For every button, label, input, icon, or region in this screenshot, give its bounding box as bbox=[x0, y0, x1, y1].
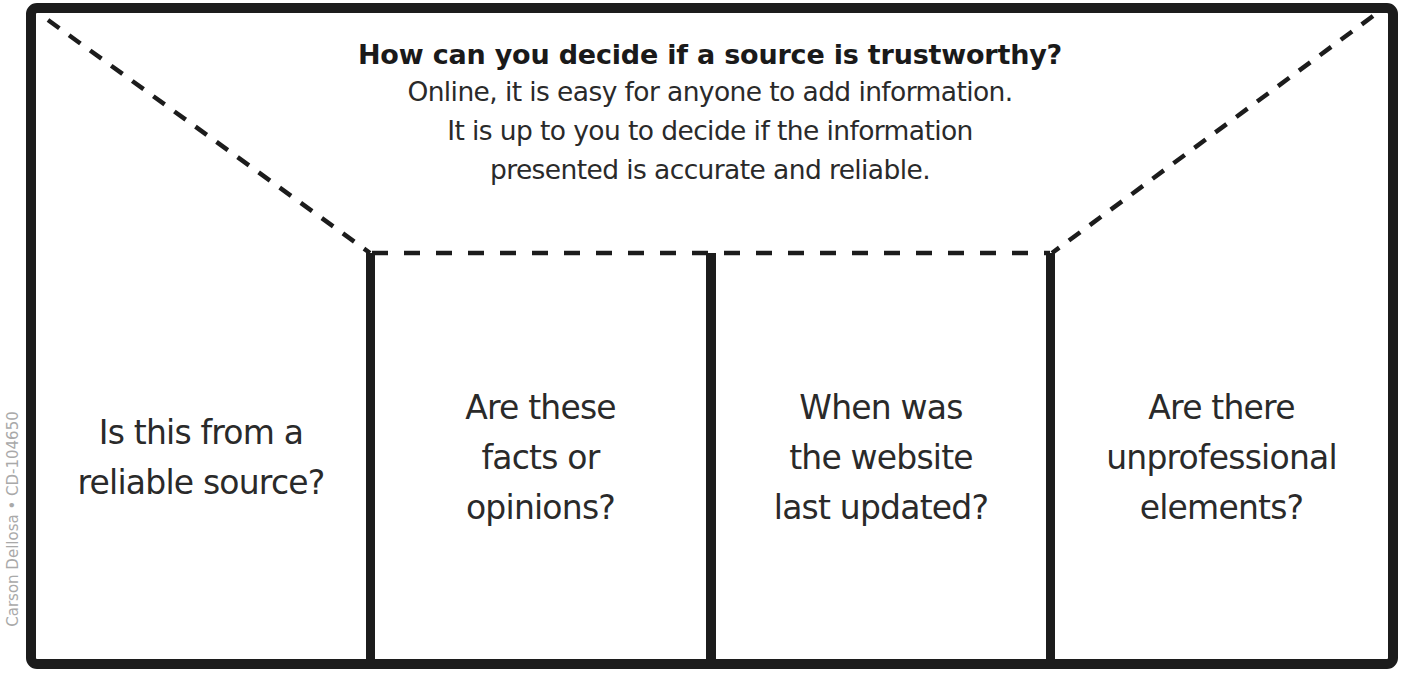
flap-question-line: Are there bbox=[1106, 383, 1337, 433]
flap-question-line: Is this from a bbox=[78, 408, 325, 458]
flap-question-line: last updated? bbox=[774, 483, 988, 533]
flap-question-line: Are these bbox=[465, 383, 616, 433]
flap-question-line: facts or bbox=[465, 433, 616, 483]
flap-question: When was the website last updated? bbox=[774, 383, 988, 533]
flap-facts-or-opinions: Are these facts or opinions? bbox=[375, 262, 706, 654]
flap-unprofessional-elements: Are there unprofessional elements? bbox=[1055, 262, 1388, 654]
header-body: Online, it is easy for anyone to add inf… bbox=[280, 72, 1140, 189]
flap-last-updated: When was the website last updated? bbox=[716, 262, 1046, 654]
flap-question-line: reliable source? bbox=[78, 458, 325, 508]
publisher-credit: Carson Dellosa • CD-104650 bbox=[4, 389, 22, 649]
flap-question: Are these facts or opinions? bbox=[465, 383, 616, 533]
flap-question-line: opinions? bbox=[465, 483, 616, 533]
header: How can you decide if a source is trustw… bbox=[280, 38, 1140, 189]
header-body-line: Online, it is easy for anyone to add inf… bbox=[280, 72, 1140, 111]
flap-question-line: unprofessional bbox=[1106, 433, 1337, 483]
divider-3 bbox=[1046, 253, 1055, 661]
flap-question: Are there unprofessional elements? bbox=[1106, 383, 1337, 533]
header-body-line: It is up to you to decide if the informa… bbox=[280, 111, 1140, 150]
divider-2 bbox=[706, 253, 716, 661]
flap-question-line: When was bbox=[774, 383, 988, 433]
flap-question-line: elements? bbox=[1106, 483, 1337, 533]
flap-question: Is this from a reliable source? bbox=[78, 408, 325, 508]
header-body-line: presented is accurate and reliable. bbox=[280, 150, 1140, 189]
header-title: How can you decide if a source is trustw… bbox=[280, 38, 1140, 72]
flap-question-line: the website bbox=[774, 433, 988, 483]
divider-1 bbox=[366, 253, 375, 661]
flap-reliable-source: Is this from a reliable source? bbox=[36, 262, 366, 654]
